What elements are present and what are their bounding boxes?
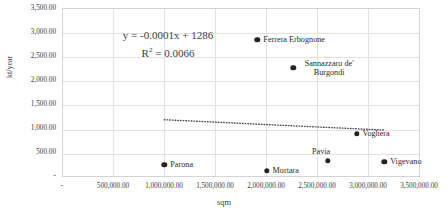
x-axis-tick-label: 1,000,000.00: [145, 182, 183, 190]
gridline-horizontal: [63, 81, 419, 82]
y-axis-tick-label: 2,500.00: [0, 52, 56, 60]
gridline-horizontal: [63, 105, 419, 106]
data-point-label: Sannazzaro de' Burgondi: [299, 59, 359, 77]
trendline-equation-annotation: y = -0.0001x + 1286 R2 = 0.0066: [104, 28, 232, 61]
x-axis-tick-label: 1,500,000.00: [196, 182, 234, 190]
y-axis-tick-label: -: [0, 172, 56, 180]
x-axis-tick-label: 3,500,000.00: [400, 182, 438, 190]
y-axis-tick-label: 500.00: [0, 148, 56, 156]
x-axis-tick-label: 2,000,000.00: [247, 182, 285, 190]
data-point-label: Ferrera Erbognone: [263, 35, 325, 44]
y-axis-tick-label: 2,000.00: [0, 76, 56, 84]
scatter-chart: kt/year 3,500.00 3,000.00 2,500.00 2,000…: [0, 0, 448, 216]
gridline-vertical: [368, 9, 369, 176]
r-squared-text: R2 = 0.0066: [104, 43, 232, 61]
data-point-label: Voghera: [363, 129, 390, 138]
y-axis-tick-label: 1,000.00: [0, 124, 56, 132]
equation-text: y = -0.0001x + 1286: [104, 28, 232, 43]
x-axis-tick-label: 500,000.00: [97, 182, 129, 190]
data-point-label: Pavia: [312, 147, 330, 156]
r-symbol: R: [142, 47, 149, 59]
data-point-label: Mortara: [273, 166, 299, 175]
y-axis-tick-label: 3,500.00: [0, 4, 56, 12]
data-point-label: Vigevano: [390, 157, 421, 166]
x-axis-tick-label: -: [61, 182, 63, 190]
r-squared-value: = 0.0066: [155, 47, 194, 59]
r-squared-exponent: 2: [149, 46, 153, 54]
data-point-label: Parona: [170, 160, 193, 169]
y-axis-tick-label: 3,000.00: [0, 28, 56, 36]
x-axis-tick-label: 2,500,000.00: [298, 182, 336, 190]
gridline-horizontal: [63, 154, 419, 155]
y-axis-tick-label: 1,500.00: [0, 100, 56, 108]
x-axis-title: sqm: [0, 198, 448, 207]
x-axis-tick-label: 3,000,000.00: [349, 182, 387, 190]
